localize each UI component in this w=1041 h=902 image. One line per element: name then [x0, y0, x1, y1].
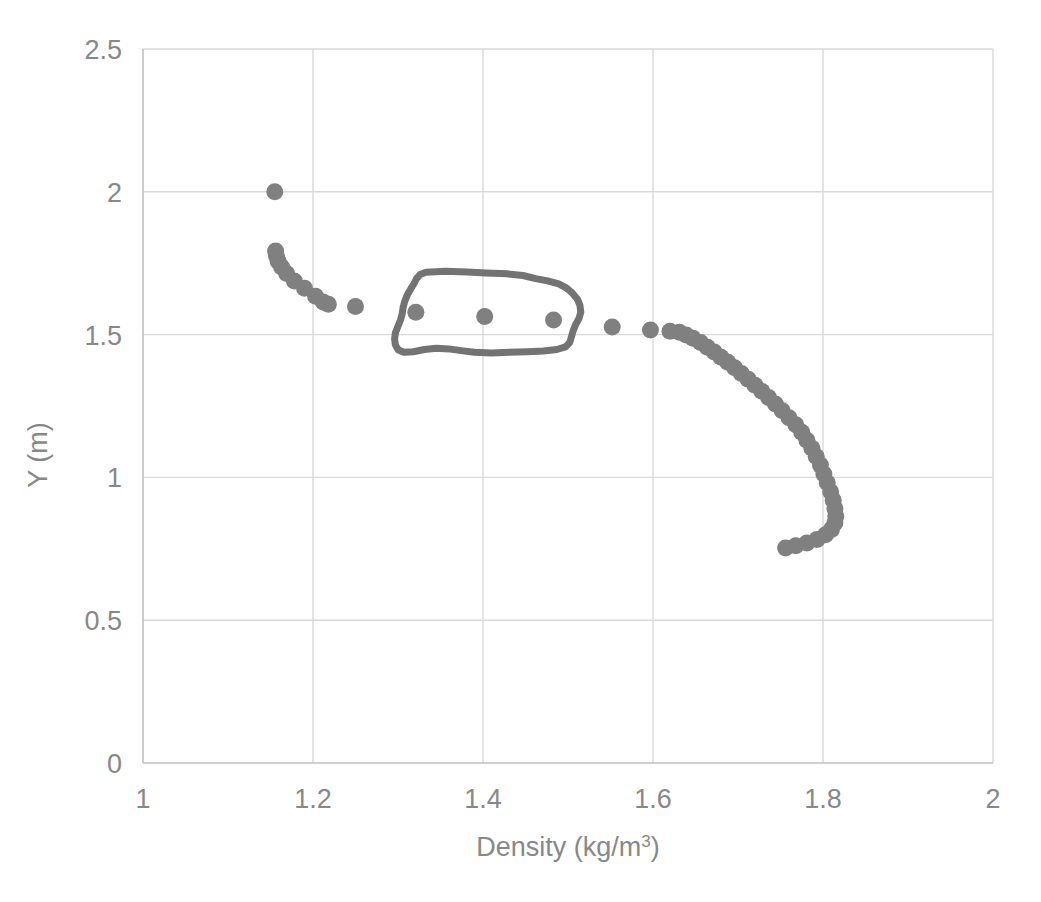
x-axis-title-superscript: 3	[641, 832, 650, 851]
y-axis-title: Y (m)	[23, 422, 53, 488]
y-tick-label: 2.5	[84, 35, 122, 65]
y-tick-label: 0	[107, 749, 122, 779]
x-tick-label: 1.4	[464, 784, 502, 814]
data-point	[320, 296, 337, 313]
x-axis-title-main: Density (kg/m	[476, 832, 641, 862]
data-point	[407, 304, 424, 321]
data-point	[476, 308, 493, 325]
x-tick-label: 1.2	[294, 784, 332, 814]
chart-background	[0, 0, 1041, 902]
data-point	[347, 298, 364, 315]
x-axis-title: Density (kg/m3)	[476, 832, 660, 862]
data-point	[545, 312, 562, 329]
y-tick-label: 2	[107, 178, 122, 208]
y-tick-label: 0.5	[84, 606, 122, 636]
data-point	[642, 322, 659, 339]
data-point	[777, 539, 794, 556]
chart-canvas: 00.511.522.5 11.21.41.61.82 Y (m) Densit…	[0, 0, 1041, 902]
x-axis-title-tail: )	[651, 832, 660, 862]
data-point	[604, 318, 621, 335]
y-tick-label: 1	[107, 463, 122, 493]
data-point	[266, 183, 283, 200]
y-tick-label: 1.5	[84, 321, 122, 351]
x-tick-label: 1.8	[804, 784, 842, 814]
x-tick-label: 1	[135, 784, 150, 814]
x-tick-label: 1.6	[634, 784, 672, 814]
x-tick-label: 2	[985, 784, 1000, 814]
scatter-chart: 00.511.522.5 11.21.41.61.82 Y (m) Densit…	[0, 0, 1041, 902]
